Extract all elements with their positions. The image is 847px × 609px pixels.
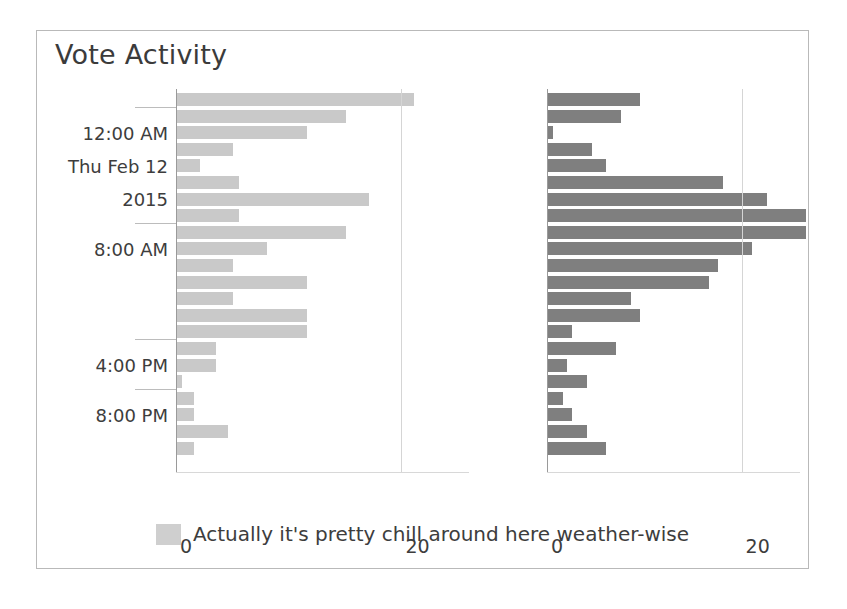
- bar: [548, 259, 718, 272]
- bar: [548, 309, 640, 322]
- bar: [548, 126, 553, 139]
- bar: [177, 425, 228, 438]
- bar: [548, 226, 806, 239]
- left-bars: [176, 89, 469, 472]
- bar: [177, 126, 307, 139]
- left-axis-line: [176, 89, 177, 472]
- bar: [548, 242, 752, 255]
- bar: [177, 342, 216, 355]
- bar: [177, 110, 346, 123]
- legend: Actually it's pretty chill around here w…: [37, 514, 808, 554]
- right-chart-panel: 020: [510, 89, 800, 472]
- bar: [548, 292, 631, 305]
- bar: [177, 276, 307, 289]
- bar: [177, 143, 233, 156]
- bar: [177, 359, 216, 372]
- legend-swatch: [156, 524, 181, 545]
- bar: [177, 93, 414, 106]
- bar: [548, 375, 587, 388]
- right-plot-area: [547, 89, 800, 472]
- right-bars: [547, 89, 800, 472]
- bar: [177, 226, 346, 239]
- gridline-20: [742, 89, 743, 472]
- bar: [548, 408, 572, 421]
- bar: [548, 342, 616, 355]
- bar: [177, 375, 182, 388]
- bar: [548, 110, 621, 123]
- bar: [177, 292, 233, 305]
- bar: [548, 193, 767, 206]
- bar: [177, 176, 239, 189]
- bar: [548, 442, 606, 455]
- bar: [177, 392, 194, 405]
- bar: [548, 425, 587, 438]
- bar: [177, 259, 233, 272]
- bar: [177, 159, 200, 172]
- bar: [548, 176, 723, 189]
- bar: [548, 93, 640, 106]
- left-chart-panel: 020: [139, 89, 469, 472]
- bar: [177, 209, 239, 222]
- bar: [548, 276, 709, 289]
- bar: [548, 325, 572, 338]
- bar: [177, 408, 194, 421]
- left-axis-baseline: [176, 472, 469, 473]
- bar: [177, 193, 369, 206]
- bar: [548, 159, 606, 172]
- bar: [548, 143, 592, 156]
- chart-frame: Vote Activity 12:00 AMThu Feb 1220158:00…: [36, 30, 809, 569]
- left-plot-area: [176, 89, 469, 472]
- bar: [548, 392, 563, 405]
- right-axis-line: [547, 89, 548, 472]
- legend-label: Actually it's pretty chill around here w…: [193, 522, 689, 546]
- bar: [177, 309, 307, 322]
- bar: [177, 242, 267, 255]
- page-title: Vote Activity: [55, 39, 227, 70]
- bar: [548, 209, 806, 222]
- bar: [177, 325, 307, 338]
- gridline-20: [401, 89, 402, 472]
- bar: [177, 442, 194, 455]
- bar: [548, 359, 567, 372]
- right-axis-baseline: [547, 472, 800, 473]
